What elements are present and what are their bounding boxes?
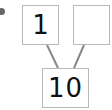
connector-right (74, 45, 84, 68)
part-box-left: 1 (22, 5, 59, 45)
part-left-value: 1 (32, 12, 49, 38)
whole-value: 10 (48, 75, 83, 101)
whole-box: 10 (42, 68, 89, 108)
connector-left (47, 45, 58, 68)
part-box-right[interactable] (73, 5, 110, 45)
